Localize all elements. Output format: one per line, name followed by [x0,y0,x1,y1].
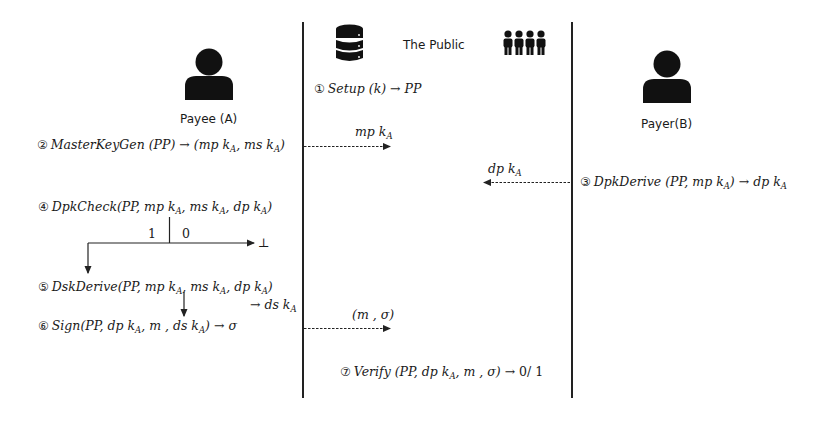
message-arrows [0,0,823,423]
message-label-mpk: mp kA [355,124,393,141]
message-label-signature: (m , σ) [352,307,394,322]
message-label-dpk: dp kA [488,161,522,178]
